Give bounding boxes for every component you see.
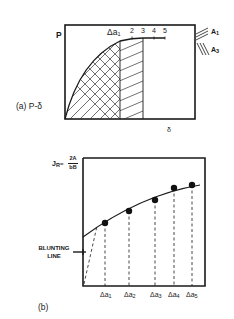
x-tick-text: Δa [100,291,109,298]
x-tick-text: Δa [186,291,195,298]
legend-a3-sub: 3 [216,48,219,54]
legend-a1-label: A1 [211,28,219,37]
line-text: LINE [36,253,72,259]
x-tick-text: Δa [168,291,177,298]
delta-a-text: Δa [107,27,117,37]
blunting-text: BLUNTING [36,245,72,251]
formula-numerator: 2A [68,156,78,164]
formula-denominator: bB [68,164,78,171]
data-point-4 [171,185,177,191]
x-tick-sub: 2 [133,293,136,299]
blunting-line-label: BLUNTING LINE [36,245,72,259]
panel-a-y-label: P [56,31,62,40]
curve-label-4: 4 [152,27,156,34]
data-point-1 [102,220,108,226]
x-tick-text: Δa [124,291,133,298]
legend-a3-label: A3 [211,46,219,55]
x-tick-da1: Δa1 [100,291,112,300]
panel-b-frame [83,158,205,286]
data-point-2 [126,208,132,214]
panel-b-fit-curve [83,185,200,237]
curve-label-3: 3 [141,27,145,34]
legend-a1-sub: 1 [216,30,219,36]
x-tick-text: Δa [150,291,159,298]
panel-b-caption: (b) [38,303,48,312]
panel-b-drop-lines [84,185,192,286]
curve-label-5: 5 [163,27,167,34]
delta-a-sub: 1 [117,31,120,37]
panel-b-y-label: JR= [52,160,63,169]
data-point-5 [189,182,195,188]
panel-a-x-label: δ [167,126,171,133]
legend-a1-swatch [196,28,208,40]
curve-label-2: 2 [130,27,134,34]
x-tick-sub: 5 [195,293,198,299]
curve-label-delta-a: Δa1 [107,28,120,38]
x-tick-da3: Δa3 [150,291,162,300]
panel-a-caption: (a) P-δ [16,102,42,111]
x-tick-sub: 3 [159,293,162,299]
x-tick-sub: 1 [109,293,112,299]
x-tick-da2: Δa2 [124,291,136,300]
data-point-3 [152,197,158,203]
x-tick-da4: Δa4 [168,291,180,300]
x-tick-da5: Δa5 [186,291,198,300]
panel-b-y-formula: 2A bB [68,156,78,170]
panel-a-curve [65,37,165,120]
legend-a3-swatch [197,43,209,55]
diagram-canvas [0,0,234,319]
x-tick-sub: 4 [177,293,180,299]
blunting-line-arrow [73,249,86,255]
